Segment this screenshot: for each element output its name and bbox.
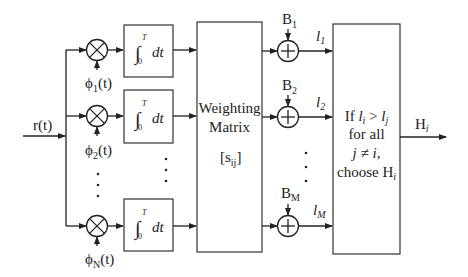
svg-text:0: 0 xyxy=(138,123,142,132)
integrator-box xyxy=(124,199,173,251)
svg-text:dt: dt xyxy=(152,44,165,60)
output-label: lM xyxy=(313,202,326,220)
decision-line-3: j ≠ i, xyxy=(351,145,381,161)
branch-1: ϕ1(t) ∫ T 0 dt xyxy=(66,25,196,94)
receiver-diagram: r(t) ϕ1(t) ∫ T 0 dt ϕ2(t) xyxy=(0,0,468,277)
decision-block: If li > lj for all j ≠ i, choose Hi xyxy=(333,24,400,254)
branch-2: ϕ2(t) ∫ T 0 dt xyxy=(66,90,196,161)
output-label: l1 xyxy=(316,28,325,46)
multiplier-icon xyxy=(87,216,108,237)
ellipsis-integrators xyxy=(165,158,168,183)
multiplier-icon xyxy=(87,106,108,127)
bias-label: B2 xyxy=(282,77,297,96)
svg-text:dt: dt xyxy=(152,219,165,235)
weighting-matrix-box xyxy=(197,22,262,252)
decision-line-2: for all xyxy=(348,126,384,142)
output-decision-label: Hi xyxy=(415,116,429,134)
adder-1: B1 l1 xyxy=(262,11,332,62)
integrator-box xyxy=(124,25,173,77)
decision-line-4: choose Hi xyxy=(337,164,396,182)
svg-text:T: T xyxy=(142,33,147,42)
svg-text:0: 0 xyxy=(138,232,142,241)
svg-text:0: 0 xyxy=(138,57,142,66)
bias-label: B1 xyxy=(282,11,297,30)
multiplier-icon xyxy=(87,40,108,61)
adder-m: BM lM xyxy=(262,185,332,237)
ellipsis-adders xyxy=(305,152,308,183)
basis-label: ϕN(t) xyxy=(85,251,114,270)
adder-2: B2 l2 xyxy=(262,77,332,128)
basis-label: ϕ2(t) xyxy=(85,142,112,161)
svg-text:T: T xyxy=(142,99,147,108)
integrator-box xyxy=(124,90,173,143)
ellipsis-multipliers xyxy=(97,173,100,198)
output-label: l2 xyxy=(316,94,325,112)
svg-text:Weighting: Weighting xyxy=(198,100,261,116)
svg-text:Matrix: Matrix xyxy=(209,119,250,135)
output-signal: Hi xyxy=(400,116,446,137)
basis-label: ϕ1(t) xyxy=(85,75,112,94)
bias-label: BM xyxy=(281,185,300,203)
plus-icon xyxy=(278,107,299,128)
svg-text:dt: dt xyxy=(152,110,165,126)
decision-line-1: If li > lj xyxy=(345,108,389,126)
input-signal: r(t) xyxy=(23,117,65,136)
plus-icon xyxy=(278,41,299,62)
weighting-matrix: Weighting Matrix [sij] xyxy=(197,22,262,252)
svg-text:T: T xyxy=(142,208,147,217)
input-label: r(t) xyxy=(33,117,52,134)
plus-icon xyxy=(278,216,299,237)
branch-n: ϕN(t) ∫ T 0 dt xyxy=(66,199,196,270)
